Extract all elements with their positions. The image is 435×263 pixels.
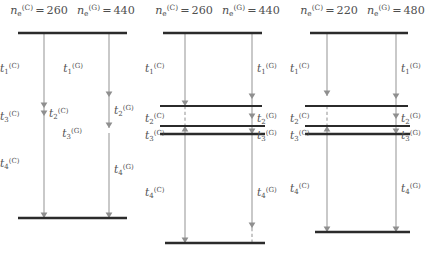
transition-label-C-t3: t3(C)	[0, 110, 10, 122]
transition-label-C-t2: t2(C)	[290, 112, 303, 124]
transition-label-G-t1: t1(G)	[401, 62, 421, 74]
arrow-head-G-t2	[393, 114, 400, 119]
arrow-head-G-t2	[106, 123, 113, 128]
panel-2: ne(C)=220ne(G)=480t1(C)t2(C)t3(C)t4(C)t1…	[290, 0, 435, 263]
transition-label-G-t4: t4(G)	[401, 182, 421, 194]
arrow-head-G-t1	[249, 94, 256, 99]
transition-label-C-t2: t2(C)	[49, 107, 69, 119]
transition-label-C-t1: t1(C)	[290, 62, 304, 74]
arrow-head-G-t4	[249, 223, 256, 228]
transition-label-G-t1: t1(G)	[0, 62, 83, 74]
panel-1: ne(C)=260ne(G)=440t1(C)t2(C)t3(C)t4(C)t1…	[145, 0, 290, 263]
transition-label-C-t1: t1(C)	[145, 62, 160, 74]
transition-label-G-t3: t3(G)	[0, 127, 82, 139]
arrow-head-C-t1	[324, 91, 331, 96]
arrow-head-G-t2	[249, 114, 256, 119]
transition-label-C-t3: t3(C)	[290, 129, 303, 141]
transition-label-C-t2: t2(C)	[145, 112, 158, 124]
arrow-head-C-t3	[41, 111, 48, 116]
panel-0: ne(C)=260ne(G)=440t1(C)t3(C)t2(C)t4(C)t1…	[0, 0, 145, 263]
transition-label-C-t4: t4(C)	[0, 157, 18, 169]
transition-label-G-t4: t4(G)	[114, 163, 134, 175]
arrow-head-C-t1	[41, 103, 48, 108]
arrow-head-G-t1	[106, 92, 113, 97]
transition-label-C-t4: t4(C)	[145, 186, 160, 198]
arrow-head-G-t1	[393, 94, 400, 99]
transition-label-G-t3: t3(G)	[401, 129, 421, 141]
transition-label-C-t4: t4(C)	[290, 182, 304, 194]
transition-label-G-t3: t3(G)	[257, 129, 277, 141]
transition-label-G-t2: t2(G)	[401, 112, 421, 124]
transition-label-G-t1: t1(G)	[257, 62, 277, 74]
transition-label-G-t2: t2(G)	[257, 112, 277, 124]
transition-label-G-t4: t4(G)	[257, 186, 277, 198]
transition-label-C-t3: t3(C)	[145, 129, 158, 141]
transition-label-G-t2: t2(G)	[114, 104, 134, 116]
